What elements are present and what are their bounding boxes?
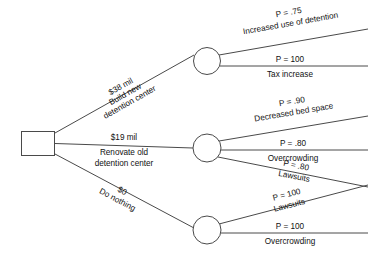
outcome-label-build-new-1: P = .75 Increased use of detention xyxy=(240,0,339,36)
branch-name-renovate-old-line2: detention center xyxy=(95,159,154,168)
root-decision-node[interactable] xyxy=(22,132,55,156)
branch-name-renovate-old-line1: Renovate old xyxy=(100,148,149,157)
branch-label-renovate-old: $19 mil Renovate old detention center xyxy=(95,133,154,168)
tree-canvas: $38 mil Build new detention center $19 m… xyxy=(0,0,386,259)
branch-label-do-nothing: $0 Do nothing xyxy=(98,178,142,214)
outcome-label-renovate-old-1: P = .90 Decreased bed space xyxy=(252,91,334,124)
outcome-probability-build-new-2: P = 100 xyxy=(276,55,305,64)
outcome-label-build-new-2: P = 100 Tax increase xyxy=(267,55,313,79)
outcome-probability-do-nothing-2: P = 100 xyxy=(276,222,305,231)
chance-node-renovate-old[interactable] xyxy=(193,134,221,162)
chance-node-build-new[interactable] xyxy=(194,48,221,75)
outcome-probability-renovate-old-2: P = .80 xyxy=(280,139,306,148)
outcome-name-build-new-2: Tax increase xyxy=(267,70,313,79)
outcome-label-do-nothing-1: P = 100 Lawsuits xyxy=(270,186,306,213)
outcome-label-do-nothing-2: P = 100 Overcrowding xyxy=(265,222,316,246)
decision-tree-diagram: $38 mil Build new detention center $19 m… xyxy=(0,0,386,259)
outcome-label-renovate-old-2: P = .80 Overcrowding xyxy=(268,139,319,163)
chance-node-do-nothing[interactable] xyxy=(193,216,221,244)
branch-label-build-new: $38 mil Build new detention center xyxy=(93,68,158,121)
edge-renovate-old-outcome-1 xyxy=(219,116,368,141)
branch-cost-renovate-old: $19 mil xyxy=(111,133,138,142)
outcome-name-do-nothing-2: Overcrowding xyxy=(265,237,316,246)
edge-build-new-outcome-1 xyxy=(219,29,368,55)
